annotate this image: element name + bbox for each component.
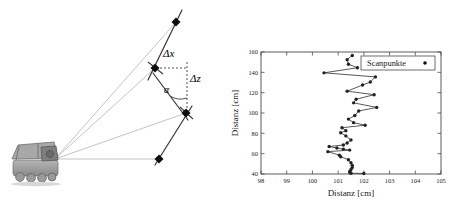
y-tick-label: 120	[248, 89, 258, 96]
data-point	[354, 98, 357, 101]
data-point	[347, 158, 350, 161]
x-tick-label: 101	[333, 177, 343, 184]
data-point	[375, 106, 378, 109]
data-point	[361, 83, 364, 86]
data-point	[362, 172, 365, 175]
data-point	[347, 62, 350, 65]
y-tick-label: 160	[248, 48, 258, 55]
data-point	[348, 148, 351, 151]
x-tick-label: 104	[410, 177, 420, 184]
legend-marker	[423, 61, 427, 65]
figure-root: Δx Δz α 98991001011021031041054060801001…	[0, 0, 454, 208]
robot-wheel-1	[16, 173, 25, 182]
laser-scan-geometry-diagram: Δx Δz α	[0, 0, 230, 208]
delta-z-label: Δz	[190, 72, 201, 84]
x-tick-label: 98	[258, 177, 264, 184]
data-point	[357, 109, 360, 112]
data-point	[345, 89, 348, 92]
mobile-robot-icon	[11, 142, 61, 186]
data-point	[345, 141, 348, 144]
alpha-label: α	[164, 84, 169, 95]
x-tick-label: 99	[284, 177, 290, 184]
data-point	[347, 117, 350, 120]
data-point	[339, 131, 342, 134]
data-point	[344, 129, 347, 132]
data-point	[342, 143, 345, 146]
data-point	[351, 54, 354, 57]
x-tick-label: 105	[436, 177, 446, 184]
y-tick-label: 60	[252, 150, 258, 157]
scan-point-plot: 9899100101102103104105406080100120140160…	[228, 0, 454, 208]
laser-ray-3	[55, 113, 186, 159]
data-point	[356, 66, 359, 69]
data-point	[335, 146, 338, 149]
robot-scanner-lens	[46, 150, 53, 157]
x-tick-label: 103	[385, 177, 395, 184]
y-tick-label: 100	[248, 109, 258, 116]
legend-label: Scanpunkte	[367, 59, 406, 68]
data-point	[344, 134, 347, 137]
data-point	[374, 75, 377, 78]
geometry-svg	[0, 0, 230, 208]
surface-polyline	[148, 10, 192, 165]
data-point	[349, 138, 352, 141]
data-point	[326, 150, 329, 153]
y-axis-title: Distanz [cm]	[230, 90, 240, 137]
data-point	[372, 93, 375, 96]
data-point	[363, 124, 366, 127]
data-point	[369, 80, 372, 83]
delta-x-label: Δx	[163, 47, 174, 59]
data-point	[342, 147, 345, 150]
data-point	[339, 155, 342, 158]
scan-point-marker-4	[155, 155, 164, 164]
chart-legend: Scanpunkte	[361, 56, 435, 70]
x-tick-label: 102	[359, 177, 369, 184]
data-point	[353, 114, 356, 117]
laser-ray-1	[55, 22, 176, 159]
robot-wheel-3	[38, 174, 47, 183]
data-point	[340, 126, 343, 129]
data-point	[349, 171, 352, 174]
laser-ray-2	[55, 68, 155, 159]
data-point	[327, 145, 330, 148]
y-tick-label: 40	[252, 170, 258, 177]
robot-wheel-2	[27, 174, 36, 183]
data-point	[352, 101, 355, 104]
y-tick-label: 140	[248, 69, 258, 76]
data-point	[345, 58, 348, 61]
robot-shadow	[11, 182, 61, 186]
robot-wheel-4	[48, 173, 56, 181]
scan-point-markers	[151, 18, 191, 164]
chart-svg: 9899100101102103104105406080100120140160…	[228, 0, 454, 208]
construction-guides	[156, 62, 187, 112]
x-tick-label: 100	[308, 177, 318, 184]
data-point	[322, 71, 325, 74]
data-point	[352, 121, 355, 124]
y-tick-label: 80	[252, 130, 258, 137]
x-axis-title: Distanz [cm]	[328, 188, 375, 198]
